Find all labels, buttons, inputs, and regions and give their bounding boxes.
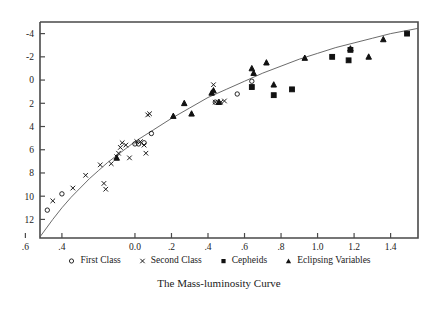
legend-item-label: Eclipsing Variables <box>297 255 370 265</box>
x-tick-label: .6 <box>22 242 29 252</box>
y-tick-label: 6 <box>29 145 34 155</box>
data-point <box>102 181 107 186</box>
data-point <box>103 187 108 192</box>
data-points <box>45 31 409 212</box>
data-point <box>302 55 308 60</box>
y-tick-label: -4 <box>26 29 34 39</box>
data-point <box>118 145 123 150</box>
data-point <box>271 82 277 87</box>
legend-item-cepheids: Cepheids <box>219 255 267 265</box>
data-point <box>189 111 195 116</box>
data-point <box>381 36 387 41</box>
x-tick-label: .8 <box>277 242 284 252</box>
data-point <box>45 208 49 212</box>
triangle-icon <box>284 256 293 265</box>
y-tick-label: 2 <box>29 99 34 109</box>
x-tick-label: .4 <box>58 242 65 252</box>
data-point <box>330 54 335 59</box>
series-second-class <box>50 82 226 203</box>
series-eclipsing-variables <box>114 36 386 160</box>
x-tick-label: 1.4 <box>385 242 397 252</box>
figure-caption: The Mass-luminosity Curve <box>0 277 438 289</box>
mass-luminosity-figure: -4-2024681012.4.6.80.0.2.4.6.81.01.21.4 … <box>0 0 438 315</box>
data-point <box>222 99 227 104</box>
data-point <box>71 186 76 191</box>
data-point <box>142 141 146 145</box>
data-point <box>235 92 239 96</box>
legend-item-first-class: First Class <box>67 255 120 265</box>
fit-curve <box>40 28 418 236</box>
data-point <box>83 173 88 178</box>
square-icon <box>219 256 228 265</box>
data-point <box>147 111 152 116</box>
x-tick-label: 0.0 <box>129 242 141 252</box>
data-point <box>290 87 295 92</box>
data-point <box>127 156 132 161</box>
data-point <box>149 131 153 135</box>
data-point <box>264 60 270 65</box>
x-icon <box>138 256 147 265</box>
axis-ticks <box>0 34 391 238</box>
legend-item-label: Second Class <box>151 255 202 265</box>
data-point <box>346 58 351 63</box>
data-point <box>211 82 216 87</box>
legend-item-eclipsing-variables: Eclipsing Variables <box>284 255 370 265</box>
y-tick-label: -2 <box>26 52 34 62</box>
data-point <box>366 54 372 59</box>
x-tick-label: 1.0 <box>312 242 324 252</box>
scatter-plot: -4-2024681012.4.6.80.0.2.4.6.81.01.21.4 <box>0 0 438 315</box>
data-point <box>250 79 254 83</box>
y-tick-label: 12 <box>25 215 35 225</box>
data-point <box>109 161 114 166</box>
legend-item-second-class: Second Class <box>138 255 202 265</box>
y-tick-label: 10 <box>25 192 35 202</box>
data-point <box>144 151 149 156</box>
data-point <box>114 155 120 160</box>
data-point <box>271 93 276 98</box>
y-tick-label: 0 <box>29 75 34 85</box>
y-tick-label: 8 <box>29 168 34 178</box>
x-tick-label: .4 <box>204 242 211 252</box>
y-tick-label: 4 <box>29 122 34 132</box>
plot-frame <box>40 22 418 238</box>
data-point <box>171 113 177 118</box>
circle-icon <box>67 256 76 265</box>
data-point <box>405 31 410 36</box>
legend-item-label: Cepheids <box>232 255 267 265</box>
data-point <box>142 143 147 148</box>
x-tick-label: 1.2 <box>348 242 360 252</box>
data-point <box>50 199 55 204</box>
data-point <box>60 192 64 196</box>
legend-item-label: First Class <box>80 255 120 265</box>
x-tick-label: .2 <box>168 242 175 252</box>
data-point <box>348 46 354 51</box>
data-point <box>182 100 188 105</box>
data-point <box>211 88 217 93</box>
data-point <box>249 85 254 90</box>
chart-legend: First ClassSecond ClassCepheidsEclipsing… <box>0 255 438 265</box>
data-point <box>98 163 103 168</box>
x-tick-label: .6 <box>241 242 248 252</box>
axis-tick-labels: -4-2024681012.4.6.80.0.2.4.6.81.01.21.4 <box>0 29 397 252</box>
